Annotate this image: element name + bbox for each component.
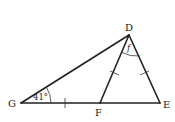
- label-g: G: [8, 98, 16, 109]
- angle-label-g: 41°: [33, 92, 48, 102]
- segment-df: [100, 35, 129, 103]
- segment-de: [129, 35, 160, 103]
- label-d: D: [125, 22, 133, 33]
- triangle-diagram: D G F E 41° f: [0, 0, 175, 122]
- label-f: F: [95, 107, 102, 118]
- label-e: E: [163, 99, 170, 110]
- angle-label-f: f: [126, 43, 132, 53]
